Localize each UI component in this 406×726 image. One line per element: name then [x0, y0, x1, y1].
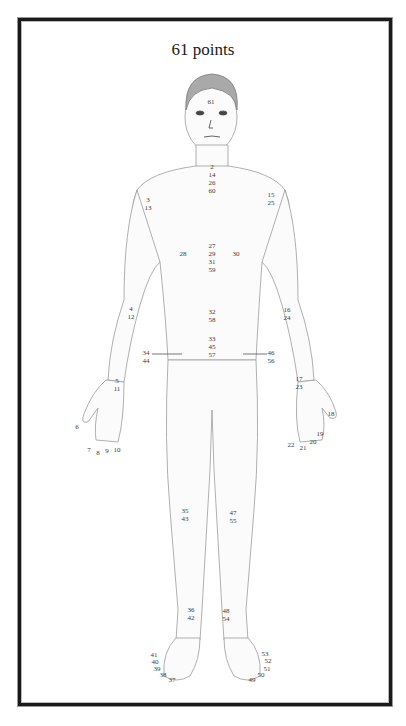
- right-foot-shape: [224, 638, 260, 680]
- point-label-right-finger-20: 20: [310, 438, 317, 446]
- right-eye: [219, 111, 227, 115]
- point-label-right-toe-49: 49: [249, 676, 256, 684]
- point-label-sternum: 27 29 31 59: [209, 242, 216, 274]
- point-label-left-toe-37: 37: [169, 676, 176, 684]
- point-label-right-toe-50: 50: [258, 671, 265, 679]
- point-label-left-finger-10: 10: [114, 446, 121, 454]
- point-label-left-shoulder: 3 13: [145, 196, 152, 212]
- point-label-left-hip: 34 44: [143, 349, 150, 365]
- point-label-right-finger-21: 21: [300, 444, 307, 452]
- point-label-left-ankle: 36 42: [188, 606, 195, 622]
- left-foot-shape: [164, 638, 200, 680]
- point-label-neck: 2 14 26 60: [209, 163, 216, 195]
- point-label-right-ankle: 48 54: [223, 607, 230, 623]
- point-label-head: 61: [208, 98, 215, 106]
- point-label-left-knee: 35 43: [182, 507, 189, 523]
- human-figure-illustration: [0, 0, 406, 726]
- point-label-right-hip: 46 56: [268, 349, 275, 365]
- point-label-right-thumb: 18: [328, 410, 335, 418]
- left-eye: [196, 111, 204, 115]
- point-label-left-chest: 28: [180, 250, 187, 258]
- point-label-right-finger-22: 22: [288, 441, 295, 449]
- point-label-left-toe-38: 38: [160, 671, 167, 679]
- legs-shape: [166, 360, 257, 640]
- point-label-left-finger-8: 8: [96, 449, 100, 457]
- point-label-right-shoulder: 15 25: [268, 191, 275, 207]
- point-label-navel-upper: 32 58: [209, 308, 216, 324]
- point-label-right-elbow: 16 24: [284, 306, 291, 322]
- point-label-right-finger-19: 19: [317, 430, 324, 438]
- point-label-left-thumb: 6: [75, 423, 79, 431]
- point-label-right-chest: 30: [233, 250, 240, 258]
- point-label-left-finger-7: 7: [87, 446, 91, 454]
- point-label-left-elbow: 4 12: [128, 305, 135, 321]
- point-label-right-wrist: 17 23: [296, 375, 303, 391]
- point-label-right-toe-52: 52: [265, 657, 272, 665]
- point-label-right-knee: 47 55: [230, 509, 237, 525]
- point-label-right-toe-51: 51: [264, 665, 271, 673]
- point-label-lower-abdomen: 33 45 57: [209, 335, 216, 359]
- point-label-left-wrist: 5 11: [114, 377, 121, 393]
- point-label-left-finger-9: 9: [105, 447, 109, 455]
